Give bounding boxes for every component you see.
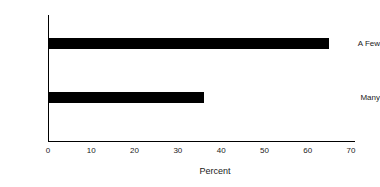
x-tick-label: 10: [79, 145, 103, 156]
bar-a-few: [48, 38, 329, 49]
bar-many: [48, 92, 204, 103]
category-label-many: Many: [336, 92, 380, 103]
x-tick-label: 0: [36, 145, 60, 156]
bar-chart-figure: A Few Many 0 10 20 30 40 50 60 70 Percen…: [0, 0, 380, 187]
x-tick-label: 20: [123, 145, 147, 156]
bar-row: [48, 92, 204, 103]
x-axis-title-text: Percent: [199, 166, 230, 176]
category-label-a-few: A Few: [336, 38, 380, 49]
x-tick-label: 40: [209, 145, 233, 156]
plot-area: [48, 15, 355, 142]
bar-row: [48, 38, 329, 49]
x-tick-label: 30: [166, 145, 190, 156]
x-tick-label: 60: [296, 145, 320, 156]
x-tick-label: 70: [339, 145, 363, 156]
x-axis-title: Percent: [0, 166, 380, 176]
x-tick-label: 50: [252, 145, 276, 156]
